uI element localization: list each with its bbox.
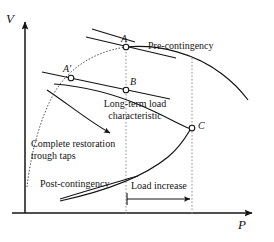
pv-curve-figure: V P A A' B C Pre-contingency Post-contin… bbox=[0, 0, 274, 242]
point-marker-A-prime bbox=[68, 75, 74, 81]
point-marker-C bbox=[189, 125, 195, 131]
axis-label-p: P bbox=[238, 218, 246, 233]
point-marker-B bbox=[123, 87, 129, 93]
annotation-post-contingency: Post-contingency bbox=[40, 178, 109, 189]
annotation-load-characteristic-line1: Long-term load bbox=[81, 98, 189, 109]
axis-label-y: V bbox=[6, 12, 14, 27]
load-increase-arrow bbox=[127, 193, 190, 205]
curve-pre-contingency-upper bbox=[126, 46, 248, 100]
annotation-load-increase: Load increase bbox=[131, 180, 187, 191]
annotation-pre-contingency: Pre-contingency bbox=[148, 40, 214, 51]
annotation-complete-restoration-line2: trough taps bbox=[31, 150, 76, 161]
load-characteristic-line-lower bbox=[42, 72, 170, 99]
point-label-A-prime: A' bbox=[63, 63, 71, 74]
point-label-B: B bbox=[130, 76, 136, 87]
point-label-A: A bbox=[121, 33, 127, 44]
annotation-load-characteristic-line2: characteristic bbox=[81, 110, 189, 121]
point-label-C: C bbox=[198, 120, 205, 131]
annotation-complete-restoration-line1: Complete restoration bbox=[31, 138, 115, 149]
point-marker-A bbox=[123, 44, 129, 50]
